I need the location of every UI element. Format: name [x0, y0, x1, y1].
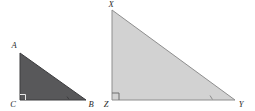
vertex-label-a: A	[10, 40, 17, 50]
geometry-figure: A C B X Z Y	[0, 0, 255, 111]
figure-canvas: A C B X Z Y	[0, 0, 255, 111]
vertex-label-b: B	[88, 99, 93, 109]
vertex-label-z: Z	[104, 99, 109, 109]
vertex-label-x: X	[107, 0, 114, 9]
vertex-label-c: C	[10, 99, 16, 109]
